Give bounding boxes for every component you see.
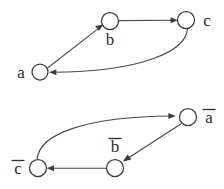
node-b-circle[interactable]: [102, 13, 119, 30]
node-b[interactable]: b: [102, 13, 119, 50]
node-c-circle[interactable]: [178, 12, 195, 29]
bottom-graph: c b a: [12, 108, 216, 178]
node-c-bar-label: c: [14, 159, 22, 178]
edge-c-to-a-arrowhead: [49, 69, 56, 75]
edge-a-to-b-line: [47, 27, 101, 69]
node-a-circle[interactable]: [32, 64, 48, 80]
edge-abar-to-bbar-line: [126, 124, 182, 160]
top-graph: a b c: [17, 11, 211, 82]
node-c-label: c: [203, 11, 211, 30]
edge-cbar-to-abar-curve: [37, 116, 172, 160]
node-c[interactable]: c: [178, 11, 212, 30]
node-a-bar[interactable]: a: [180, 108, 216, 127]
node-a-bar-circle[interactable]: [180, 109, 197, 126]
graph-diagram: a b c: [0, 0, 224, 189]
node-a-label: a: [17, 63, 25, 82]
node-a-bar-label: a: [205, 108, 213, 127]
edge-cbar-to-abar-arrowhead: [168, 113, 175, 119]
node-b-bar-circle[interactable]: [107, 160, 124, 177]
node-b-bar-label: b: [111, 137, 120, 156]
edge-abar-to-bbar-arrowhead: [123, 155, 131, 162]
node-a[interactable]: a: [17, 63, 48, 82]
edge-c-to-a-curve: [53, 29, 188, 73]
edge-cbar-to-abar: [37, 113, 175, 160]
edge-a-to-b: [47, 24, 103, 68]
edge-c-to-a: [49, 29, 187, 76]
node-b-bar[interactable]: b: [107, 137, 124, 177]
edge-b-to-c: [119, 17, 178, 23]
edge-bbar-to-cbar: [47, 165, 107, 171]
node-c-bar-circle[interactable]: [30, 160, 47, 177]
edge-bbar-to-cbar-arrowhead: [47, 165, 54, 171]
node-b-label: b: [106, 30, 115, 49]
node-c-bar[interactable]: c: [12, 159, 47, 178]
edge-abar-to-bbar: [123, 124, 182, 162]
edge-b-to-c-arrowhead: [171, 17, 178, 23]
diagram-canvas: a b c: [0, 0, 224, 189]
